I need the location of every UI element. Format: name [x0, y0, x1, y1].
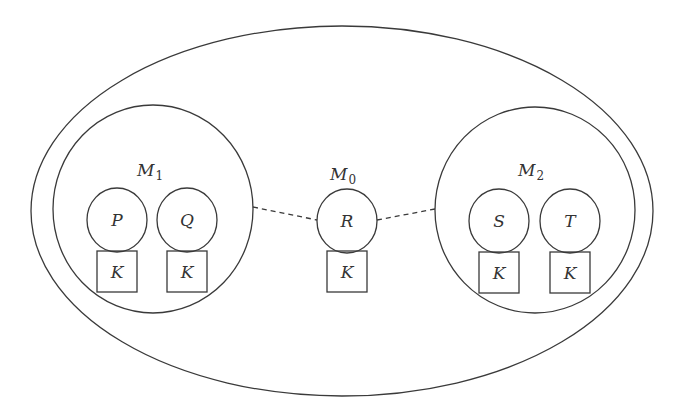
- group-m0-label: M0: [329, 164, 356, 187]
- node-s-key-label: K: [492, 263, 507, 283]
- node-p-key-label: K: [110, 262, 125, 282]
- module-diagram: M1 P K Q K M0 R K M2 S: [0, 0, 684, 414]
- node-p: P K: [87, 188, 147, 292]
- node-r-key-label: K: [340, 262, 355, 282]
- node-p-label: P: [110, 210, 123, 230]
- connection-r-m2: [377, 209, 435, 220]
- group-m2: M2 S K T K: [435, 107, 635, 313]
- group-m2-boundary: [435, 107, 635, 313]
- node-t-label: T: [564, 211, 577, 231]
- node-r: R K: [317, 189, 377, 292]
- node-r-label: R: [340, 211, 354, 231]
- node-q: Q K: [157, 188, 217, 292]
- node-t-key-label: K: [563, 263, 578, 283]
- group-m2-label: M2: [517, 160, 544, 183]
- group-m1-boundary: [53, 105, 253, 313]
- connection-m1-r: [253, 207, 317, 220]
- node-q-label: Q: [180, 210, 194, 230]
- node-q-key-label: K: [180, 262, 195, 282]
- node-t: T K: [540, 189, 600, 293]
- group-m0: M0 R K: [317, 164, 377, 292]
- group-m1-label: M1: [136, 160, 163, 183]
- node-s-label: S: [493, 211, 505, 231]
- group-m1: M1 P K Q K: [53, 105, 253, 313]
- node-s: S K: [469, 189, 529, 293]
